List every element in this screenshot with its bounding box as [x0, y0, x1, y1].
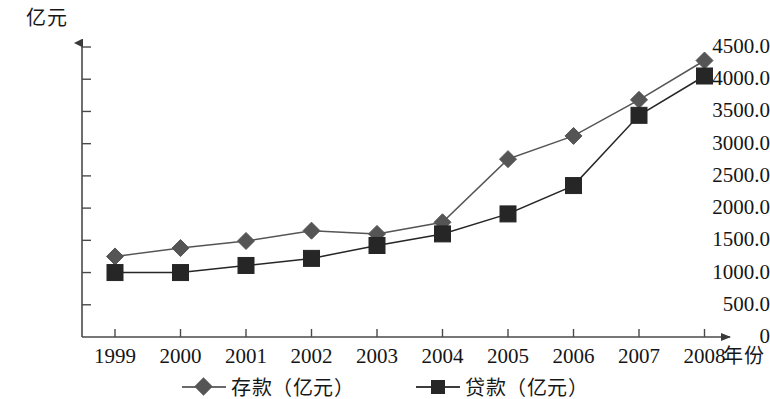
line-chart: 亿元 年份 0500.01000.01500.02000.02500.03000… — [0, 0, 770, 399]
chart-legend: 存款（亿元） 贷款（亿元） — [0, 372, 770, 399]
diamond-marker-icon — [182, 378, 226, 396]
legend-item-deposits: 存款（亿元） — [182, 372, 354, 399]
legend-label-loans: 贷款（亿元） — [465, 372, 588, 399]
legend-label-deposits: 存款（亿元） — [231, 372, 354, 399]
legend-item-loans: 贷款（亿元） — [416, 372, 588, 399]
square-marker-icon — [416, 378, 460, 396]
axes — [82, 43, 730, 337]
axis-ticks — [82, 47, 705, 337]
plot-area — [0, 0, 770, 399]
data-series — [107, 52, 714, 281]
